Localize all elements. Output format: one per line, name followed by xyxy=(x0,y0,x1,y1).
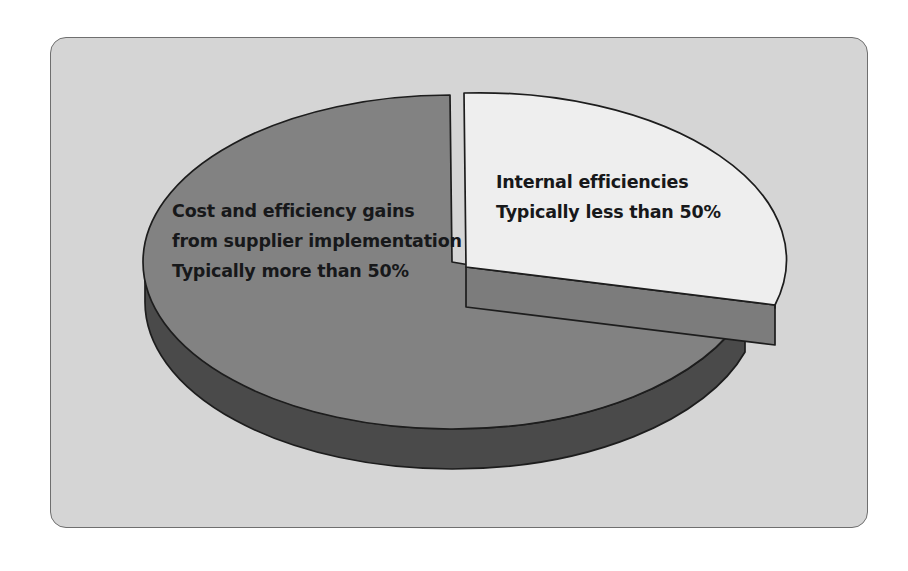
pie-label-internal-line-2: Typically less than 50% xyxy=(496,197,721,227)
pie-label-main-slice: Cost and efficiency gains from supplier … xyxy=(172,196,462,286)
pie-label-internal-line-1: Internal efficiencies xyxy=(496,167,721,197)
pie-label-internal-slice: Internal efficiencies Typically less tha… xyxy=(496,167,721,227)
pie-label-main-line-1: Cost and efficiency gains xyxy=(172,196,462,226)
pie-label-main-line-3: Typically more than 50% xyxy=(172,256,462,286)
pie-label-main-line-2: from supplier implementation xyxy=(172,226,462,256)
figure-stage: Cost and efficiency gains from supplier … xyxy=(0,0,908,571)
